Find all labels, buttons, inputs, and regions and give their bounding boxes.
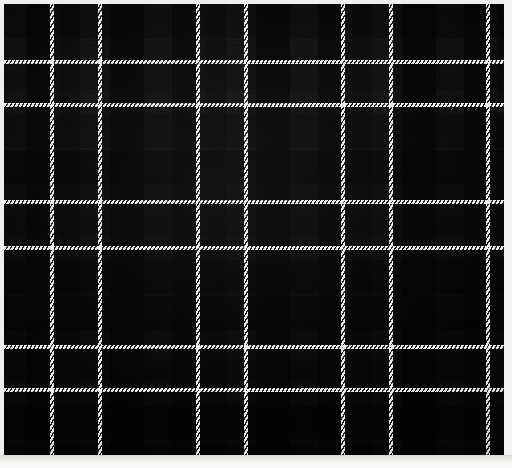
photo-edge-left (0, 0, 4, 468)
photo-edge-right (504, 0, 512, 468)
weft-guard-line-layer (4, 4, 504, 456)
tartan-swatch (4, 4, 504, 456)
image-canvas (0, 0, 512, 468)
weft-guard-line (4, 103, 504, 107)
weft-guard-line (4, 60, 504, 64)
photo-bottom-strip (0, 455, 512, 468)
weft-guard-line (4, 200, 504, 204)
weft-guard-line (4, 246, 504, 250)
weft-guard-line (4, 345, 504, 349)
weft-guard-line (4, 388, 504, 392)
photo-edge-top (0, 0, 512, 4)
